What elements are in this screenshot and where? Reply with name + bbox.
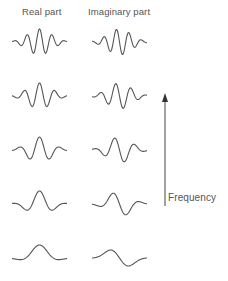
imaginary-part-wavelet-row-5 [92, 250, 147, 266]
real-part-wavelet-row-2 [12, 83, 67, 107]
imaginary-part-wavelet-row-2 [92, 84, 147, 109]
imaginary-part-wavelet-row-4 [92, 193, 147, 215]
real-part-wavelet-row-1 [12, 29, 67, 53]
real-part-wavelet-row-3 [12, 137, 67, 159]
arrow-up-icon [162, 93, 168, 102]
gabor-wavelet-diagram [0, 0, 228, 281]
real-part-wavelet-row-4 [12, 191, 67, 210]
imaginary-part-wavelet-row-1 [92, 30, 147, 55]
real-part-wavelet-row-5 [12, 245, 67, 260]
imaginary-part-wavelet-row-3 [92, 138, 147, 162]
frequency-axis-label: Frequency [168, 192, 216, 203]
wavelet-group [12, 29, 147, 266]
